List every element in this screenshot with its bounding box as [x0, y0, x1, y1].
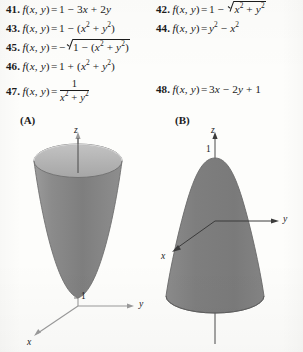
- exercise-42: 42.f(x, y)=1 − x2 + y2: [156, 0, 266, 18]
- figure-b-surface-body: [166, 158, 264, 313]
- equals-sign: =: [200, 22, 209, 34]
- exercise-row: 43.f(x, y)=1 − (x2 + y2) 44.f(x, y)=y2 −…: [0, 19, 303, 38]
- equals-sign: =: [50, 22, 59, 34]
- exercise-number: 41.: [6, 3, 20, 15]
- exercise-number: 42.: [156, 3, 170, 15]
- equals-sign: =: [200, 3, 209, 15]
- function-arguments: (x, y): [26, 41, 50, 53]
- expression: y2 − x2: [209, 22, 239, 34]
- exercise-number: 43.: [6, 22, 20, 34]
- figure-b-x-label: x: [161, 250, 165, 261]
- exercise-number: 47.: [6, 85, 20, 97]
- figure-b-y-label: y: [283, 213, 287, 224]
- figure-a-y-label: y: [139, 298, 143, 309]
- figure-b-z-label: z: [211, 124, 215, 135]
- expression: 1 + (x2 + y2): [59, 60, 115, 72]
- figure-a-tick-1: 1: [81, 291, 86, 301]
- expression: −1 − (x2 + y2): [59, 41, 130, 53]
- exercise-row: 46.f(x, y)=1 + (x2 + y2): [0, 57, 303, 76]
- figure-a: z y x 1: [0, 128, 152, 352]
- x-axis-arrowhead: [34, 329, 41, 336]
- expression: 3x − 2y + 1: [209, 83, 261, 95]
- figure-b-graphic: [152, 128, 303, 352]
- exercise-number: 44.: [156, 22, 170, 34]
- equals-sign: =: [50, 3, 59, 15]
- figure-b: z y x 1: [152, 128, 303, 352]
- textbook-page: 41.f(x, y)=1 − 3x + 2y 42.f(x, y)=1 − x2…: [0, 0, 303, 352]
- exercise-row: 41.f(x, y)=1 − 3x + 2y 42.f(x, y)=1 − x2…: [0, 0, 303, 19]
- figure-a-x-label: x: [27, 336, 31, 347]
- fraction-denominator: x2 + y2: [60, 92, 89, 103]
- exercise-number: 48.: [156, 83, 170, 95]
- equals-sign: =: [50, 85, 59, 97]
- exercise-43: 43.f(x, y)=1 − (x2 + y2): [6, 19, 115, 37]
- exercise-41: 41.f(x, y)=1 − 3x + 2y: [6, 0, 111, 18]
- function-arguments: (x, y): [176, 22, 200, 34]
- y-axis-arrowhead: [271, 218, 279, 223]
- figure-label-b: (B): [175, 114, 190, 126]
- exercise-44: 44.f(x, y)=y2 − x2: [156, 19, 239, 37]
- exercise-list: 41.f(x, y)=1 − 3x + 2y 42.f(x, y)=1 − x2…: [0, 0, 303, 102]
- exercise-47: 47.f(x, y)=1x2 + y2: [6, 78, 90, 103]
- exercise-row: 45.f(x, y)=−1 − (x2 + y2): [0, 38, 303, 57]
- figure-label-a: (A): [20, 114, 35, 126]
- expression: 1 − (x2 + y2): [59, 22, 115, 34]
- exercise-48: 48.f(x, y)=3x − 2y + 1: [156, 80, 261, 98]
- expression: 1 − x2 + y2: [209, 3, 266, 15]
- function-arguments: (x, y): [176, 83, 200, 95]
- function-arguments: (x, y): [26, 85, 50, 97]
- function-arguments: (x, y): [176, 3, 200, 15]
- function-arguments: (x, y): [26, 3, 50, 15]
- equals-sign: =: [50, 60, 59, 72]
- exercise-number: 45.: [6, 41, 20, 53]
- exercise-row: 47.f(x, y)=1x2 + y2 48.f(x, y)=3x − 2y +…: [0, 76, 303, 102]
- figure-a-z-label: z: [74, 124, 78, 135]
- x-axis-line: [38, 306, 78, 333]
- y-axis-arrowhead: [127, 304, 134, 309]
- exercise-46: 46.f(x, y)=1 + (x2 + y2): [6, 57, 115, 75]
- fraction-numerator: 1: [60, 78, 89, 89]
- exercise-45: 45.f(x, y)=−1 − (x2 + y2): [6, 38, 130, 56]
- exercise-number: 46.: [6, 60, 20, 72]
- equals-sign: =: [50, 41, 59, 53]
- equals-sign: =: [200, 83, 209, 95]
- expression: 1 − 3x + 2y: [59, 3, 111, 15]
- fraction: 1x2 + y2: [59, 78, 90, 103]
- function-arguments: (x, y): [26, 22, 50, 34]
- figure-a-graphic: [0, 128, 152, 352]
- figure-b-tick-1: 1: [206, 144, 211, 154]
- function-arguments: (x, y): [26, 60, 50, 72]
